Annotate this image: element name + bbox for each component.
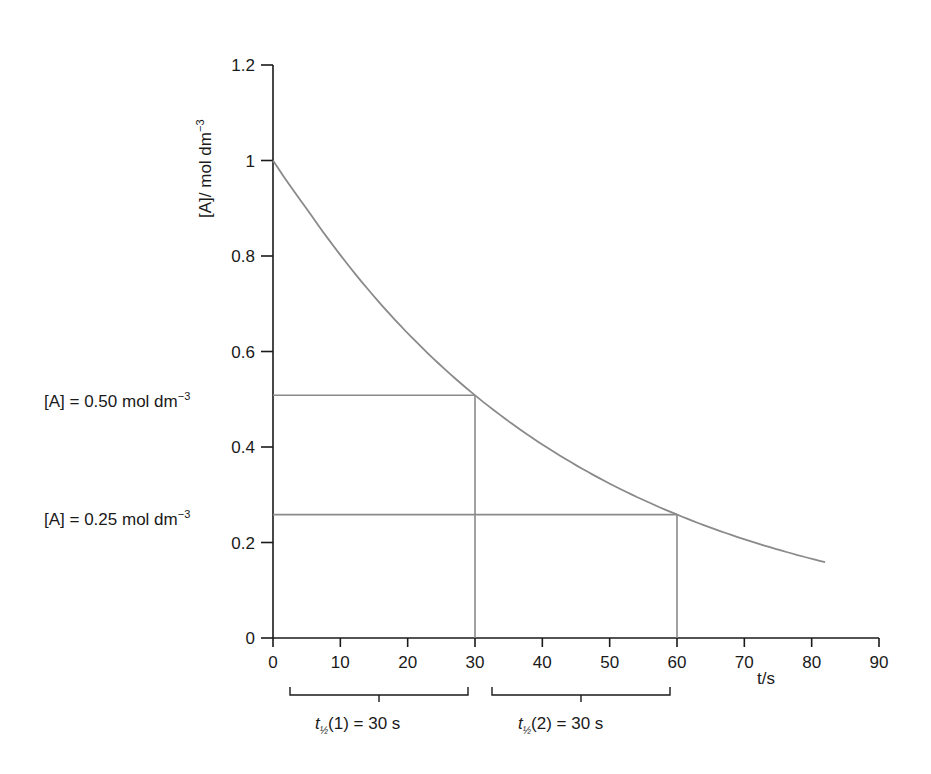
x-tick-label: 60 [668, 653, 687, 672]
y-tick-label: 1 [246, 152, 255, 171]
x-tick-label: 30 [466, 653, 485, 672]
x-axis-label: t/s [757, 669, 775, 688]
y-tick-label: 0.2 [231, 534, 255, 553]
half-life-2-label: t½(2) = 30 s [518, 714, 603, 736]
y-tick-label: 0.6 [231, 343, 255, 362]
decay-curve [273, 161, 825, 563]
annotation-a050: [A] = 0.50 mol dm−3 [44, 390, 190, 411]
half-life-brackets [290, 687, 670, 702]
half-life-1-label: t½(1) = 30 s [315, 714, 400, 736]
x-tick-label: 80 [802, 653, 821, 672]
y-tick-label: 0 [246, 629, 255, 648]
x-ticks: 0102030405060708090 [268, 638, 888, 672]
y-ticks: 00.20.40.60.811.2 [231, 56, 273, 648]
x-tick-label: 40 [533, 653, 552, 672]
bracket-2 [492, 687, 670, 702]
x-tick-label: 90 [870, 653, 889, 672]
x-tick-label: 0 [268, 653, 277, 672]
x-tick-label: 20 [398, 653, 417, 672]
bracket-1 [290, 687, 468, 702]
annotation-a025: [A] = 0.25 mol dm−3 [44, 508, 190, 529]
x-tick-label: 70 [735, 653, 754, 672]
half-life-guides [273, 395, 677, 638]
x-tick-label: 10 [331, 653, 350, 672]
y-tick-label: 0.8 [231, 247, 255, 266]
half-life-chart: 00.20.40.60.811.2 0102030405060708090 [A… [0, 0, 931, 774]
y-tick-label: 1.2 [231, 56, 255, 75]
y-axis-label: [A]/ mol dm−3 [194, 119, 215, 218]
x-tick-label: 50 [600, 653, 619, 672]
y-tick-label: 0.4 [231, 438, 255, 457]
